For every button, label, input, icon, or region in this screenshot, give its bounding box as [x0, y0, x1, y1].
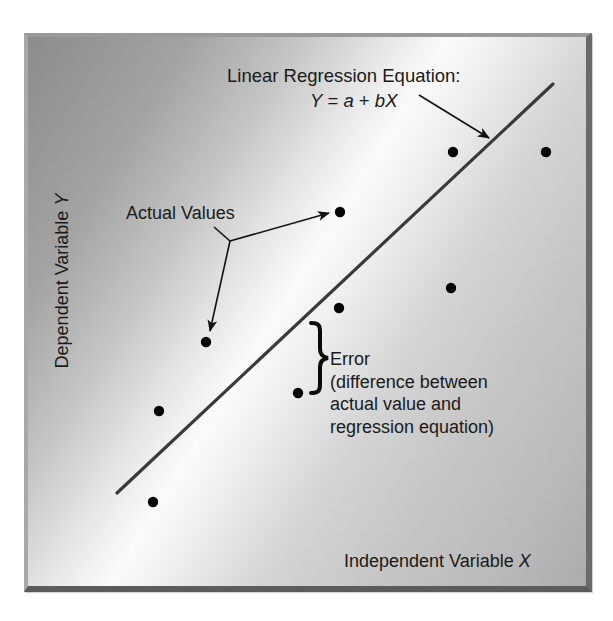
- data-point: [448, 147, 458, 157]
- equation-a: a: [343, 90, 353, 111]
- regression-plot: [0, 0, 613, 621]
- x-axis-label-text: Independent Variable: [344, 551, 519, 571]
- data-point: [201, 337, 211, 347]
- data-points: [148, 147, 551, 507]
- error-line-3: regression equation): [330, 416, 494, 439]
- equation-b: b: [375, 90, 385, 111]
- data-point: [541, 147, 551, 157]
- equation-formula: Y = a + bX: [310, 90, 397, 112]
- error-line-1: (difference between: [330, 371, 494, 394]
- actual-values-label: Actual Values: [126, 202, 235, 224]
- data-point: [148, 497, 158, 507]
- equation-title: Linear Regression Equation:: [227, 65, 460, 87]
- y-axis-label-var: Y: [52, 194, 72, 206]
- error-annotation: Error (difference between actual value a…: [330, 348, 494, 438]
- equation-x: X: [385, 90, 397, 111]
- y-axis-label-text: Dependent Variable: [52, 206, 72, 369]
- data-point: [293, 388, 303, 398]
- data-point: [446, 283, 456, 293]
- equation-equals: =: [322, 90, 343, 111]
- error-title: Error: [330, 348, 494, 371]
- data-point: [334, 303, 344, 313]
- equation-plus: +: [354, 90, 375, 111]
- error-brace-icon: [311, 323, 328, 393]
- actual-values-pointer: [210, 213, 329, 331]
- equation-arrow: [419, 95, 489, 138]
- data-point: [335, 207, 345, 217]
- x-axis-label: Independent Variable X: [344, 550, 531, 572]
- x-axis-label-var: X: [519, 551, 531, 571]
- equation-y: Y: [310, 90, 322, 111]
- y-axis-label: Dependent Variable Y: [51, 194, 73, 369]
- error-line-2: actual value and: [330, 393, 494, 416]
- data-point: [154, 406, 164, 416]
